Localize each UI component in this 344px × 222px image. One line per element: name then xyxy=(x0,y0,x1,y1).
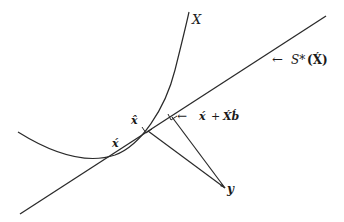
geometry-diagram: X ← S* (X́) x̂ x́ ← x́ + X́b́ y xyxy=(0,0,344,222)
svg-text:S*: S* xyxy=(291,53,305,67)
manifold-curve xyxy=(18,12,189,158)
tangent-space-line xyxy=(20,16,326,214)
svg-text:(X́): (X́) xyxy=(307,52,328,67)
tangent-space-label: ← S* (X́) xyxy=(272,52,328,67)
svg-text:←: ← xyxy=(177,109,187,123)
svg-text:x́: x́ xyxy=(198,110,206,123)
x-acute-label: x́ xyxy=(111,137,119,150)
svg-text:X́b́: X́b́ xyxy=(222,109,240,123)
projection-to-x-hat xyxy=(148,131,225,188)
svg-text:+: + xyxy=(211,110,220,123)
projection-to-tangent xyxy=(172,117,225,188)
y-label: y xyxy=(226,182,235,196)
x-hat-label: x̂ xyxy=(130,114,138,127)
linear-approx-label: ← x́ + X́b́ xyxy=(177,109,240,123)
manifold-label: X xyxy=(191,12,202,27)
svg-text:←: ← xyxy=(272,52,283,67)
